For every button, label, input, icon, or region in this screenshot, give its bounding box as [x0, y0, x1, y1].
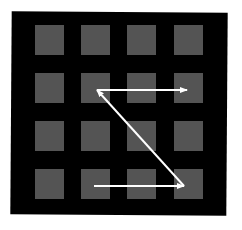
- diagonal-arrow: [97, 90, 184, 186]
- z-path-arrows: [0, 0, 242, 230]
